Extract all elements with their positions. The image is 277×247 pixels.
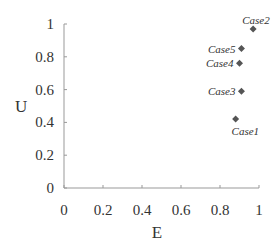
diamond-marker-icon <box>238 88 245 95</box>
x-tick-label: 1 <box>255 202 263 218</box>
point-label: Case4 <box>206 57 234 69</box>
y-tick-label: 1 <box>47 16 55 32</box>
x-tick-label: 0.4 <box>133 202 152 218</box>
x-tick-label: 0 <box>60 202 68 218</box>
y-axis-label: U <box>15 97 27 116</box>
scatter-chart: 00.20.40.60.81 00.20.40.60.81 U E Case1C… <box>0 0 277 247</box>
point-label: Case1 <box>232 125 260 137</box>
data-point-case2: Case2 <box>242 14 270 32</box>
x-tick-label: 0.6 <box>172 202 191 218</box>
diamond-marker-icon <box>236 60 243 67</box>
diamond-marker-icon <box>238 45 245 52</box>
y-tick-label: 0 <box>47 180 55 196</box>
y-tick-label: 0.2 <box>35 147 54 163</box>
y-ticks: 00.20.40.60.81 <box>35 16 67 196</box>
x-ticks: 00.20.40.60.81 <box>60 185 263 218</box>
data-point-case3: Case3 <box>208 85 245 97</box>
x-tick-label: 0.8 <box>211 202 230 218</box>
y-tick-label: 0.8 <box>35 49 54 65</box>
data-point-case5: Case5 <box>208 43 245 55</box>
data-point-case1: Case1 <box>232 116 260 137</box>
point-label: Case2 <box>242 14 270 26</box>
x-axis-label: E <box>152 223 162 242</box>
diamond-marker-icon <box>250 25 257 32</box>
x-tick-label: 0.2 <box>94 202 113 218</box>
point-label: Case3 <box>208 85 236 97</box>
y-tick-label: 0.6 <box>35 82 54 98</box>
y-tick-label: 0.4 <box>35 114 54 130</box>
data-point-case4: Case4 <box>206 57 243 69</box>
diamond-marker-icon <box>232 116 239 123</box>
point-label: Case5 <box>208 43 236 55</box>
data-points: Case1Case2Case3Case4Case5 <box>206 14 270 137</box>
